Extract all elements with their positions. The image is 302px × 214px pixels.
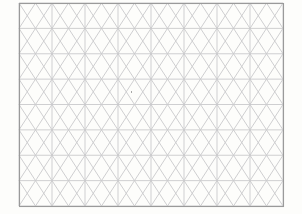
dust-speck xyxy=(131,91,132,93)
triangular-grid xyxy=(0,0,302,214)
grid-paper-canvas xyxy=(0,0,302,214)
